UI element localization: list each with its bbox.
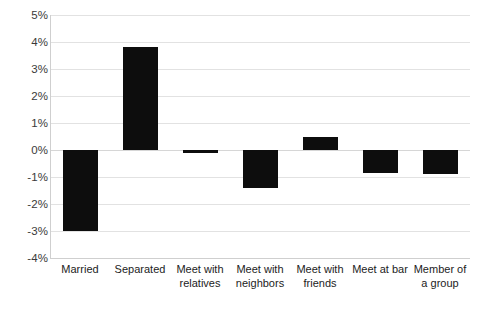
y-axis-tick-label: 1% xyxy=(4,117,48,129)
x-axis-category-label: Meet with neighbors xyxy=(230,263,290,290)
bar xyxy=(303,137,338,151)
x-axis-category-label: Meet with friends xyxy=(290,263,350,290)
gridline xyxy=(50,42,470,43)
gridline xyxy=(50,258,470,259)
y-axis-tick-label: 4% xyxy=(4,36,48,48)
gridline xyxy=(50,15,470,16)
y-axis-tick-label: -1% xyxy=(4,171,48,183)
gridline xyxy=(50,96,470,97)
bar xyxy=(243,150,278,188)
bar xyxy=(363,150,398,173)
gridline xyxy=(50,204,470,205)
x-axis-category-label: Meet at bar xyxy=(350,263,410,277)
plot-area xyxy=(50,15,470,258)
x-axis-category-label: Member of a group xyxy=(410,263,470,290)
gridline xyxy=(50,123,470,124)
y-axis-tick-label: 5% xyxy=(4,9,48,21)
y-axis-tick-label: -2% xyxy=(4,198,48,210)
y-axis-tick-labels: 5%4%3%2%1%0%-1%-2%-3%-4% xyxy=(0,0,48,312)
x-axis-category-label: Married xyxy=(50,263,110,277)
y-axis-tick-label: 3% xyxy=(4,63,48,75)
x-axis-category-label: Separated xyxy=(110,263,170,277)
bar xyxy=(63,150,98,231)
bar xyxy=(183,150,218,153)
y-axis-line xyxy=(50,15,51,258)
bar-chart: 5%4%3%2%1%0%-1%-2%-3%-4% MarriedSeparate… xyxy=(0,0,477,312)
y-axis-tick-label: -4% xyxy=(4,252,48,264)
y-axis-tick-label: 2% xyxy=(4,90,48,102)
y-axis-tick-label: 0% xyxy=(4,144,48,156)
bar xyxy=(123,47,158,150)
bar xyxy=(423,150,458,174)
x-axis-category-label: Meet with relatives xyxy=(170,263,230,290)
gridline xyxy=(50,69,470,70)
y-axis-tick-label: -3% xyxy=(4,225,48,237)
gridline xyxy=(50,231,470,232)
